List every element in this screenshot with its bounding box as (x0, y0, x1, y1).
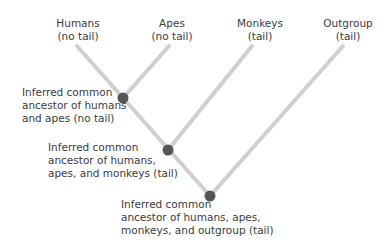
taxon-apes: Apes (no tail) (146, 17, 198, 43)
node-label-root: Inferred common ancestor of humans, apes… (121, 198, 274, 237)
branch-outgroup (210, 46, 343, 196)
node-label-line: Inferred common (121, 198, 274, 211)
taxon-trait: (tail) (230, 30, 290, 43)
node-label-line: ancestor of humans, apes, (121, 211, 274, 224)
taxon-name: Humans (52, 17, 104, 30)
node-label-line: ancestor of humans, (48, 154, 178, 167)
node-label-humans-apes: Inferred common ancestor of humans and a… (22, 86, 127, 125)
node-label-humans-apes-monkeys: Inferred common ancestor of humans, apes… (48, 141, 178, 180)
taxon-trait: (tail) (317, 30, 379, 43)
taxon-name: Monkeys (230, 17, 290, 30)
taxon-monkeys: Monkeys (tail) (230, 17, 290, 43)
branch-apes (123, 46, 169, 98)
node-label-line: Inferred common (22, 86, 127, 99)
node-label-line: Inferred common (48, 141, 178, 154)
taxon-humans: Humans (no tail) (52, 17, 104, 43)
node-label-line: monkeys, and outgroup (tail) (121, 224, 274, 237)
taxon-trait: (no tail) (52, 30, 104, 43)
node-label-line: ancestor of humans (22, 99, 127, 112)
branch-monkeys (168, 46, 252, 150)
node-label-line: apes, and monkeys (tail) (48, 167, 178, 180)
taxon-outgroup: Outgroup (tail) (317, 17, 379, 43)
taxon-name: Outgroup (317, 17, 379, 30)
taxon-trait: (no tail) (146, 30, 198, 43)
node-label-line: and apes (no tail) (22, 112, 127, 125)
taxon-name: Apes (146, 17, 198, 30)
